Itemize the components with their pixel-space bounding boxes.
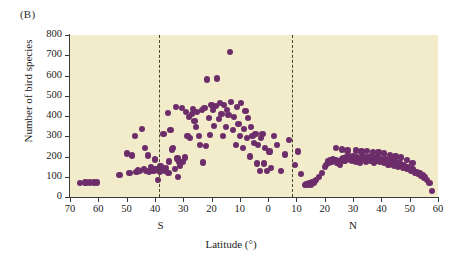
data-point [233, 142, 239, 148]
data-point [211, 123, 217, 129]
x-tick-label: 10 [284, 203, 308, 214]
data-point [152, 156, 158, 162]
y-tick-label: 200 [36, 150, 62, 161]
data-point [218, 111, 224, 117]
data-point [429, 188, 435, 194]
y-tick-label: 100 [36, 170, 62, 181]
data-point [259, 131, 265, 137]
data-point [142, 145, 148, 151]
x-tick [325, 198, 326, 202]
x-tick-label: 30 [341, 203, 365, 214]
data-point [240, 145, 246, 151]
x-tick [70, 198, 71, 202]
data-point [298, 171, 304, 177]
data-point [201, 105, 207, 111]
y-tick [65, 55, 69, 56]
x-tick [183, 198, 184, 202]
x-tick-label: 20 [200, 203, 224, 214]
data-point [200, 159, 206, 165]
x-tick [353, 198, 354, 202]
data-point [227, 49, 233, 55]
data-point [193, 124, 199, 130]
data-point [170, 145, 176, 151]
x-tick-label: 40 [369, 203, 393, 214]
y-tick-label: 0 [36, 190, 62, 201]
data-point [344, 147, 350, 153]
hemisphere-label-n: N [343, 219, 363, 231]
x-tick [381, 198, 382, 202]
tropic-south-line [159, 35, 160, 197]
x-tick [296, 198, 297, 202]
x-tick [155, 198, 156, 202]
data-point [261, 160, 267, 166]
y-tick-label: 400 [36, 109, 62, 120]
y-tick [65, 197, 69, 198]
data-point [237, 133, 243, 139]
hemisphere-label-s: S [151, 219, 171, 231]
data-point [187, 135, 193, 141]
data-point [223, 124, 229, 130]
data-point [242, 108, 248, 114]
x-tick-label: 60 [86, 203, 110, 214]
x-tick-label: 70 [58, 203, 82, 214]
data-point [214, 75, 220, 81]
data-point [231, 114, 237, 120]
data-point [241, 126, 247, 132]
data-point [254, 160, 260, 166]
y-tick [65, 177, 69, 178]
data-point [207, 132, 213, 138]
data-point [129, 152, 135, 158]
data-point [247, 153, 253, 159]
data-point [238, 100, 244, 106]
data-point [278, 168, 284, 174]
data-point [220, 133, 226, 139]
y-tick-label: 700 [36, 48, 62, 59]
figure-panel-b: (B) 0100200300400500600700800 7060504030… [0, 0, 462, 263]
data-point [319, 170, 325, 176]
data-point [94, 179, 100, 185]
x-tick [438, 198, 439, 202]
data-point [165, 110, 171, 116]
x-axis-line [69, 197, 439, 198]
y-axis-title: Number of bird species [22, 16, 34, 166]
y-tick-label: 500 [36, 89, 62, 100]
x-tick [212, 198, 213, 202]
data-point [116, 172, 122, 178]
x-tick [127, 198, 128, 202]
data-point [230, 127, 236, 133]
data-point [126, 170, 132, 176]
data-point [132, 133, 138, 139]
x-tick [410, 198, 411, 202]
data-point [274, 142, 280, 148]
x-tick-label: 50 [115, 203, 139, 214]
y-tick [65, 116, 69, 117]
x-tick [240, 198, 241, 202]
x-tick-label: 30 [171, 203, 195, 214]
data-point [228, 99, 234, 105]
data-point [160, 131, 166, 137]
x-tick-label: 60 [426, 203, 450, 214]
data-point [257, 168, 263, 174]
data-point [282, 151, 288, 157]
data-point [203, 143, 209, 149]
x-tick [268, 198, 269, 202]
x-tick-label: 20 [313, 203, 337, 214]
tropic-north-line [292, 35, 293, 197]
y-axis-tick-labels: 0100200300400500600700800 [34, 0, 62, 263]
data-point [268, 165, 274, 171]
data-point [196, 133, 202, 139]
y-tick [65, 96, 69, 97]
y-tick [65, 76, 69, 77]
y-axis-line [69, 34, 70, 198]
plot-area [70, 35, 438, 197]
data-point [175, 174, 181, 180]
data-point [245, 115, 251, 121]
y-tick-label: 600 [36, 69, 62, 80]
x-tick [98, 198, 99, 202]
data-point [271, 133, 277, 139]
x-tick-label: 50 [398, 203, 422, 214]
data-point [295, 148, 301, 154]
data-point [204, 76, 210, 82]
data-point [145, 152, 151, 158]
y-tick-label: 800 [36, 28, 62, 39]
